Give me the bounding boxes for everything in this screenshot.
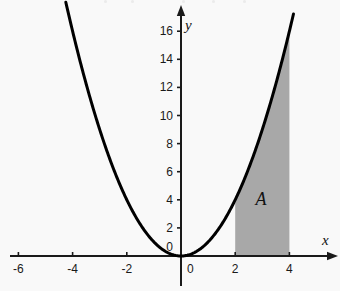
y-axis-arrowhead [177,5,185,16]
region-a-label: A [256,190,267,208]
x-axis-label: x [322,233,329,248]
x-tick-label: -2 [121,263,132,275]
y-tick-label: 6 [0,166,173,178]
y-tick-label: 2 [0,222,173,234]
x-axis-arrowhead [327,252,338,260]
x-tick-label: 2 [232,263,239,275]
x-tick-label: 4 [286,263,293,275]
y-tick-label: 16 [0,25,173,37]
y-tick-label: 4 [0,194,173,206]
x-tick-label: -4 [67,263,78,275]
y-tick-label: 12 [0,81,173,93]
y-tick-label: 8 [0,138,173,150]
x-tick-label: -6 [13,263,24,275]
x-tick-label: 0 [187,263,194,275]
y-tick-label: 10 [0,110,173,122]
y-axis-label: y [185,18,192,33]
y-tick-label: 0 [0,241,173,253]
y-tick-label: 14 [0,53,173,65]
parabola-figure: -6-4-2024 0246810121416 x y A [0,0,340,291]
